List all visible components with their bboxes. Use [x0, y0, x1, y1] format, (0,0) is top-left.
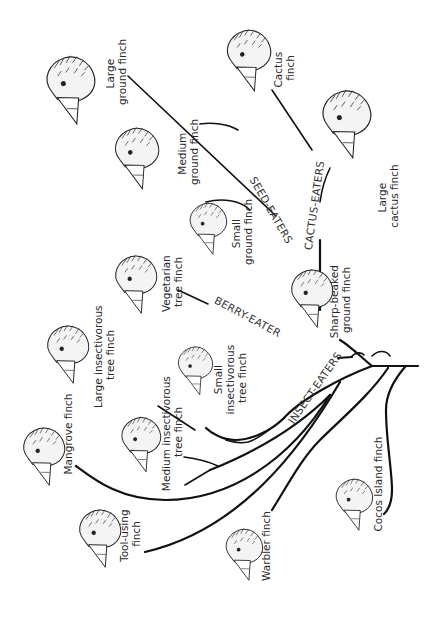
label-warbler-finch: Warbler finch: [260, 511, 272, 581]
finch-phylogeny-diagram: Large ground finch Cactus finch Medium g…: [0, 0, 445, 624]
group-label-seed-eaters: SEED-EATERS: [247, 174, 295, 245]
small-ground-finch-head: [187, 200, 232, 257]
cactus-finch-head: [224, 26, 277, 94]
medium-ground-finch-head: [112, 124, 165, 192]
large-ground-finch-head: [43, 52, 102, 127]
large-insectivorous-finch-head: [45, 322, 95, 387]
label-small-insectivorous-finch: Small insectivorous tree finch: [212, 342, 248, 415]
label-large-insectivorous-finch: Large insectivorous tree finch: [92, 302, 116, 408]
label-medium-insectivorous-finch: Medium insectivorous tree finch: [160, 373, 184, 491]
label-mangrove-finch: Mangrove finch: [62, 393, 74, 474]
vegetarian-finch-head: [113, 252, 163, 317]
label-small-ground-finch: Small ground finch: [230, 199, 254, 265]
finch-heads: [21, 26, 378, 583]
label-tool-using-finch: Tool-using finch: [118, 506, 142, 563]
large-cactus-finch-head: [319, 86, 378, 161]
label-medium-ground-finch: Medium ground finch: [176, 119, 200, 185]
label-large-cactus-finch: Large cactus finch: [376, 164, 400, 227]
label-large-ground-finch: Large ground finch: [104, 39, 128, 105]
group-label-cactus-eaters: CACTUS-EATERS: [302, 160, 326, 251]
label-sharp-beaked-finch: Sharp-beaked ground finch: [328, 262, 352, 338]
group-label-berry-eater: BERRY-EATER: [213, 294, 283, 339]
label-cocos-island-finch: Cocos Island finch: [372, 436, 384, 531]
label-vegetarian-finch: Vegetarian tree finch: [160, 252, 184, 312]
label-cactus-finch: Cactus finch: [272, 48, 296, 87]
group-label-insect-eaters: INSECT-EATERS: [286, 350, 344, 426]
